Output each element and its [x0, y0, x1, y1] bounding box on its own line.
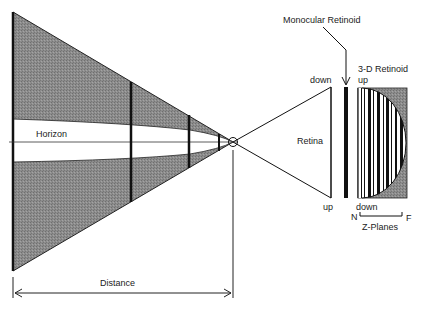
retina-bottom-label: up: [323, 203, 333, 212]
distance-label: Distance: [100, 279, 135, 288]
monocular-retinoid-bar: [344, 87, 348, 198]
monocular-retinoid-label: Monocular Retinoid: [283, 16, 361, 25]
retina-label: Retina: [297, 137, 323, 146]
retina-top-label: down: [310, 76, 332, 85]
z-far-label: F: [406, 214, 412, 223]
3d-retinoid: [358, 88, 407, 198]
retinoid-bottom-label: down: [356, 203, 378, 212]
z-near-label: N: [351, 213, 358, 222]
visual-field-cone: [13, 12, 233, 271]
retinoid-top-label: up: [358, 76, 368, 85]
z-planes-bracket: [360, 212, 402, 216]
retinoid-3d-label: 3-D Retinoid: [358, 65, 408, 74]
diagram-canvas: [0, 0, 426, 309]
horizon-label: Horizon: [36, 130, 67, 139]
z-planes-label: Z-Planes: [362, 223, 398, 232]
